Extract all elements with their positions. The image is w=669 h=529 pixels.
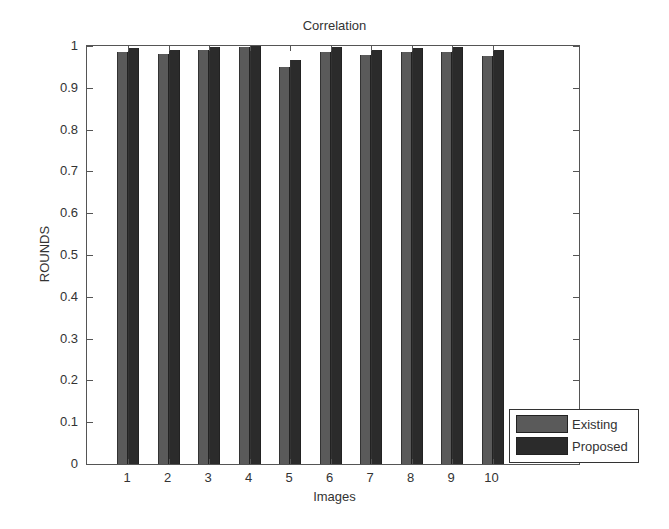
y-tick-right: [573, 339, 579, 340]
y-axis-title: ROUNDS: [37, 226, 52, 282]
x-tick-top: [128, 46, 129, 51]
x-tick: [331, 459, 332, 464]
x-tick-top: [331, 46, 332, 51]
bar-existing-5: [279, 67, 290, 464]
bar-existing-7: [360, 55, 371, 464]
x-tick-label: 9: [447, 470, 454, 485]
legend-label: Proposed: [572, 439, 628, 454]
legend-item-proposed: Proposed: [516, 437, 628, 455]
y-tick: [87, 255, 93, 256]
x-tick-label: 4: [245, 470, 252, 485]
x-tick-top: [290, 46, 291, 51]
y-tick: [87, 171, 93, 172]
bar-existing-8: [401, 52, 412, 464]
y-tick-right: [573, 255, 579, 256]
x-tick-top: [250, 46, 251, 51]
y-tick-right: [573, 297, 579, 298]
x-tick-top: [371, 46, 372, 51]
y-tick-right: [573, 171, 579, 172]
bar-existing-6: [320, 52, 331, 464]
y-tick: [87, 297, 93, 298]
x-tick-label: 6: [326, 470, 333, 485]
y-tick: [87, 422, 93, 423]
legend-swatch: [516, 437, 568, 455]
y-tick-label: 0.9: [60, 79, 78, 94]
bar-existing-1: [117, 52, 128, 464]
y-tick-label: 0.3: [60, 330, 78, 345]
y-tick-right: [573, 213, 579, 214]
x-tick: [250, 459, 251, 464]
chart-title: Correlation: [0, 18, 669, 33]
y-tick-label: 0.6: [60, 205, 78, 220]
y-tick: [87, 339, 93, 340]
x-tick-label: 5: [285, 470, 292, 485]
y-tick-right: [573, 130, 579, 131]
x-tick-label: 8: [407, 470, 414, 485]
x-tick: [290, 459, 291, 464]
x-tick-top: [169, 46, 170, 51]
x-tick: [169, 459, 170, 464]
y-tick-label: 1: [71, 38, 78, 53]
bar-existing-10: [482, 56, 493, 464]
x-tick: [412, 459, 413, 464]
bar-existing-9: [441, 52, 452, 464]
y-tick: [87, 88, 93, 89]
x-tick: [128, 459, 129, 464]
x-tick-label: 1: [123, 470, 130, 485]
bar-proposed-8: [412, 48, 423, 464]
bar-proposed-7: [371, 50, 382, 464]
bar-existing-2: [158, 54, 169, 464]
bar-proposed-9: [452, 47, 463, 464]
plot-area: [86, 45, 580, 465]
x-tick-label: 10: [484, 470, 498, 485]
y-tick-label: 0: [71, 456, 78, 471]
y-tick-label: 0.5: [60, 247, 78, 262]
y-tick-label: 0.2: [60, 372, 78, 387]
y-tick-right: [573, 88, 579, 89]
x-tick-top: [209, 46, 210, 51]
bar-proposed-1: [128, 48, 139, 464]
x-tick-top: [493, 46, 494, 51]
x-tick: [493, 459, 494, 464]
y-tick: [87, 213, 93, 214]
x-tick: [371, 459, 372, 464]
x-tick-top: [412, 46, 413, 51]
legend-label: Existing: [572, 417, 618, 432]
bar-proposed-10: [493, 50, 504, 464]
y-tick: [87, 46, 93, 47]
y-tick-label: 0.1: [60, 414, 78, 429]
x-tick-top: [452, 46, 453, 51]
y-tick: [87, 380, 93, 381]
x-tick-label: 7: [366, 470, 373, 485]
y-tick-right: [573, 46, 579, 47]
x-tick: [452, 459, 453, 464]
bar-proposed-3: [209, 47, 220, 464]
x-axis-title: Images: [0, 489, 669, 504]
legend-item-existing: Existing: [516, 415, 618, 433]
y-tick: [87, 464, 93, 465]
y-tick: [87, 130, 93, 131]
y-tick-label: 0.4: [60, 288, 78, 303]
bar-existing-4: [239, 47, 250, 464]
y-tick-right: [573, 464, 579, 465]
x-tick-label: 2: [164, 470, 171, 485]
bar-proposed-6: [331, 47, 342, 464]
bar-proposed-2: [169, 50, 180, 464]
bar-proposed-4: [250, 46, 261, 464]
y-tick-label: 0.8: [60, 121, 78, 136]
x-tick-label: 3: [204, 470, 211, 485]
x-tick: [209, 459, 210, 464]
bar-proposed-5: [290, 60, 301, 464]
legend: ExistingProposed: [509, 409, 639, 463]
y-tick-label: 0.7: [60, 163, 78, 178]
y-tick-right: [573, 380, 579, 381]
bar-existing-3: [198, 50, 209, 464]
legend-swatch: [516, 415, 568, 433]
